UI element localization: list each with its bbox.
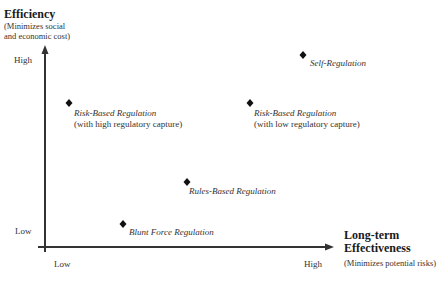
point-note: (with high regulatory capture) bbox=[74, 119, 182, 129]
diamond-marker-icon bbox=[120, 220, 127, 228]
point-name: Risk-Based Regulation bbox=[74, 108, 156, 118]
point-label-risk-based-high-capture: Risk-Based Regulation (with high regulat… bbox=[74, 108, 182, 130]
point-name: Self-Regulation bbox=[310, 58, 366, 68]
y-axis-subtitle-line2: and economic cost) bbox=[4, 31, 70, 41]
diamond-marker-icon bbox=[66, 99, 73, 107]
point-label-risk-based-low-capture: Risk-Based Regulation (with low regulato… bbox=[254, 108, 360, 130]
point-label-blunt-force: Blunt Force Regulation bbox=[129, 227, 214, 238]
x-axis-title-line2: Effectiveness bbox=[344, 242, 411, 255]
point-name: Blunt Force Regulation bbox=[129, 227, 214, 237]
point-note: (with low regulatory capture) bbox=[254, 119, 360, 129]
x-tick-high: High bbox=[304, 259, 322, 269]
y-tick-low: Low bbox=[15, 226, 32, 236]
y-tick-high: High bbox=[14, 55, 32, 65]
point-name: Rules-Based Regulation bbox=[189, 186, 276, 196]
y-axis-subtitle-line1: (Minimizes social bbox=[4, 21, 65, 31]
x-axis-arrowhead-icon bbox=[325, 244, 334, 251]
y-axis-arrowhead-icon bbox=[42, 45, 49, 54]
x-tick-low: Low bbox=[54, 259, 71, 269]
diamond-marker-icon bbox=[184, 178, 191, 186]
diamond-marker-icon bbox=[247, 99, 254, 107]
point-label-self-regulation: Self-Regulation bbox=[310, 58, 366, 69]
diamond-marker-icon bbox=[300, 51, 307, 59]
point-name: Risk-Based Regulation bbox=[254, 108, 336, 118]
point-label-rules-based: Rules-Based Regulation bbox=[189, 186, 276, 197]
x-axis-subtitle: (Minimizes potential risks) bbox=[344, 258, 436, 268]
y-axis-title: Efficiency bbox=[4, 8, 55, 21]
